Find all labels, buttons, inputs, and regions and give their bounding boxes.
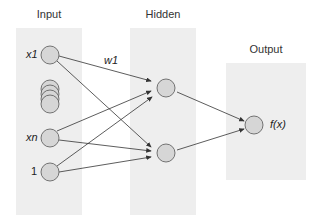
hidden-node-1 <box>157 79 175 97</box>
edges <box>57 56 244 172</box>
weight-label: w1 <box>104 54 118 66</box>
hidden-node-2 <box>157 144 175 162</box>
bias-label: 1 <box>31 165 37 177</box>
input-node-xn <box>41 129 59 147</box>
network-graph <box>0 0 329 222</box>
x1-label: x1 <box>26 48 38 60</box>
input-node-x1 <box>41 46 59 64</box>
output-node <box>245 116 263 134</box>
input-node-bias <box>41 163 59 181</box>
output-label: f(x) <box>270 118 286 130</box>
xn-label: xn <box>26 131 38 143</box>
